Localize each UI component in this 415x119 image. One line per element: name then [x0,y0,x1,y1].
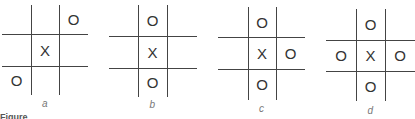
o-mark: O [138,68,167,97]
x-mark: X [356,40,385,71]
empty-cell [326,9,356,40]
board-label: a [42,98,48,109]
o-mark: O [276,37,305,69]
x-mark: X [31,34,59,66]
empty-cell [2,34,31,66]
empty-cell [218,69,248,100]
board-label: b [150,99,156,110]
empty-cell [59,66,88,95]
empty-cell [218,7,248,37]
empty-cell [109,36,138,68]
empty-cell [167,5,197,36]
o-mark: O [356,9,385,40]
empty-cell [59,34,88,66]
o-mark: O [326,40,356,71]
o-mark: O [385,40,415,71]
x-mark: X [248,37,276,69]
empty-cell [276,7,305,37]
empty-cell [2,5,31,34]
empty-cell [167,36,197,68]
board-label: d [368,105,374,116]
o-mark: O [2,66,31,95]
empty-cell [31,5,59,34]
empty-cell [276,69,305,100]
empty-cell [109,68,138,97]
o-mark: O [138,5,167,36]
o-mark: O [248,7,276,37]
o-mark: O [248,69,276,100]
empty-cell [385,9,415,40]
empty-cell [31,66,59,95]
empty-cell [218,37,248,69]
empty-cell [109,5,138,36]
empty-cell [326,71,356,101]
figure-caption: Figure [0,112,28,119]
board-label: c [259,103,264,114]
o-mark: O [356,71,385,101]
empty-cell [167,68,197,97]
x-mark: X [138,36,167,68]
o-mark: O [59,5,88,34]
empty-cell [385,71,415,101]
